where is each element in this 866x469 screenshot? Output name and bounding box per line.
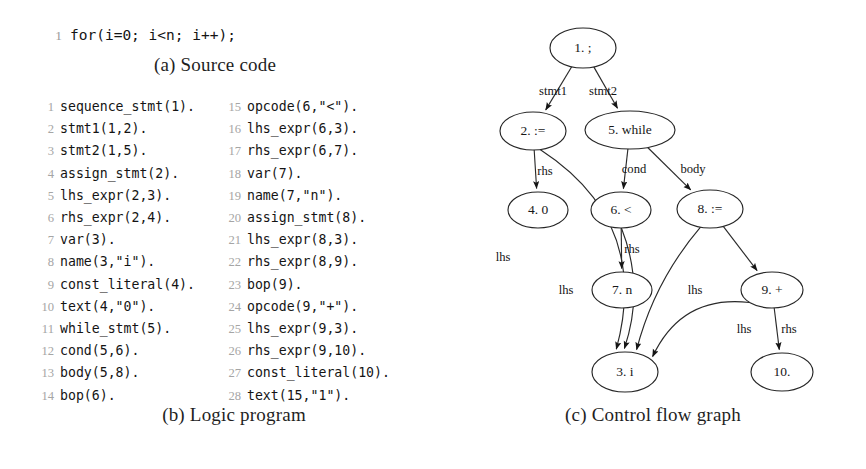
logic-program-line: 21lhs_expr(8,3).	[221, 229, 390, 251]
logic-program-line-number: 11	[34, 319, 54, 340]
source-code-panel: 1for(i=0; i<n; i++);	[40, 26, 390, 45]
logic-program-line-text: opcode(6,"<").	[247, 99, 358, 114]
cfg-edge-n8-to-n9	[723, 226, 757, 270]
logic-program-line-number: 5	[34, 186, 54, 207]
logic-program-line: 12cond(5,6).	[34, 340, 195, 362]
cfg-node-n2[interactable]: 2. :=	[500, 112, 566, 150]
cfg-node-label: 1. ;	[574, 40, 591, 55]
cfg-node-n3[interactable]: 3. i	[592, 352, 658, 392]
caption-source-code: (a) Source code	[40, 54, 390, 76]
cfg-node-n8[interactable]: 8. :=	[677, 190, 743, 228]
logic-program-line-number: 8	[34, 252, 54, 273]
cfg-edge-label: rhs	[624, 242, 639, 256]
cfg-node-group: 1. ;2. :=5. while4. 06. <8. :=7. n9. +3.…	[500, 28, 813, 392]
logic-program-line-number: 10	[34, 297, 54, 318]
logic-program-line-number: 13	[34, 363, 54, 384]
cfg-node-label: 7. n	[612, 282, 633, 297]
logic-program-line-number: 22	[221, 252, 241, 273]
logic-program-line-number: 7	[34, 230, 54, 251]
logic-program-line: 7var(3).	[34, 229, 195, 251]
cfg-node-n10[interactable]: 10.	[751, 353, 813, 391]
cfg-node-n6[interactable]: 6. <	[591, 192, 651, 228]
cfg-edge-n9-to-n3	[653, 302, 750, 357]
logic-program-column-left: 1sequence_stmt(1).2stmt1(1,2).3stmt2(1,5…	[34, 96, 195, 407]
logic-program-line: 4assign_stmt(2).	[34, 163, 195, 185]
control-flow-graph-svg: 1. ;2. :=5. while4. 06. <8. :=7. n9. +3.…	[440, 0, 866, 404]
caption-control-flow-graph: (c) Control flow graph	[440, 404, 866, 426]
cfg-edge-label: stmt2	[589, 84, 617, 98]
control-flow-graph-panel: 1. ;2. :=5. while4. 06. <8. :=7. n9. +3.…	[440, 0, 866, 430]
logic-program-line: 2stmt1(1,2).	[34, 118, 195, 140]
logic-program-line-number: 1	[34, 97, 54, 118]
cfg-node-label: 3. i	[616, 364, 634, 379]
logic-program-line: 24opcode(9,"+").	[221, 296, 390, 318]
logic-program-line-number: 25	[221, 319, 241, 340]
cfg-node-n1[interactable]: 1. ;	[550, 28, 616, 68]
logic-program-line-number: 16	[221, 119, 241, 140]
logic-program-line: 1sequence_stmt(1).	[34, 96, 195, 118]
logic-program-line-text: lhs_expr(9,3).	[247, 321, 358, 336]
logic-program-line-text: rhs_expr(6,7).	[247, 143, 358, 158]
logic-program-line: 20assign_stmt(8).	[221, 207, 390, 229]
cfg-node-label: 6. <	[610, 202, 631, 217]
cfg-edge-n2-to-n3	[540, 150, 625, 350]
logic-program-line-text: rhs_expr(9,10).	[247, 343, 366, 358]
logic-program-line: 18var(7).	[221, 163, 390, 185]
cfg-edge-label: lhs	[688, 283, 703, 297]
logic-program-line-text: rhs_expr(8,9).	[247, 254, 358, 269]
cfg-node-n7[interactable]: 7. n	[592, 272, 652, 308]
cfg-node-label: 8. :=	[698, 201, 723, 216]
logic-program-line-number: 19	[221, 186, 241, 207]
logic-program-line-number: 17	[221, 141, 241, 162]
logic-program-line-text: name(7,"n").	[247, 188, 342, 203]
logic-program-line-text: rhs_expr(2,4).	[60, 210, 171, 225]
logic-program-line-text: assign_stmt(2).	[60, 166, 179, 181]
logic-program-line-text: const_literal(4).	[60, 277, 195, 292]
logic-program-line-text: bop(9).	[247, 277, 303, 292]
cfg-edge-n9-to-n10	[774, 308, 779, 350]
logic-program-line: 22rhs_expr(8,9).	[221, 251, 390, 273]
logic-program-line-number: 27	[221, 363, 241, 384]
cfg-edge-label: lhs	[737, 322, 752, 336]
cfg-edge-label: lhs	[559, 283, 574, 297]
cfg-edge-n6-to-n7	[621, 228, 622, 269]
logic-program-line: 25lhs_expr(9,3).	[221, 318, 390, 340]
logic-program-line-number: 9	[34, 275, 54, 296]
cfg-node-n9[interactable]: 9. +	[741, 272, 803, 308]
logic-program-line-text: lhs_expr(6,3).	[247, 121, 358, 136]
logic-program-line: 3stmt2(1,5).	[34, 140, 195, 162]
logic-program-line-number: 12	[34, 341, 54, 362]
cfg-edge-label: rhs	[537, 164, 552, 178]
logic-program-panel: 1sequence_stmt(1).2stmt1(1,2).3stmt2(1,5…	[34, 96, 434, 407]
cfg-node-label: 9. +	[761, 282, 782, 297]
cfg-node-n5[interactable]: 5. while	[585, 111, 675, 149]
logic-program-line-number: 4	[34, 164, 54, 185]
cfg-edge-label: cond	[622, 162, 647, 176]
logic-program-line-number: 23	[221, 275, 241, 296]
logic-program-line-text: lhs_expr(2,3).	[60, 188, 171, 203]
cfg-edge-n2-to-n4	[534, 150, 536, 189]
cfg-node-n4[interactable]: 4. 0	[508, 192, 568, 228]
logic-program-line-text: name(3,"i").	[60, 254, 155, 269]
cfg-node-label: 5. while	[608, 122, 652, 137]
logic-program-line-text: opcode(9,"+").	[247, 299, 358, 314]
logic-program-line-number: 20	[221, 208, 241, 229]
logic-program-line-number: 15	[221, 97, 241, 118]
logic-program-line: 17rhs_expr(6,7).	[221, 140, 390, 162]
logic-program-line: 13body(5,8).	[34, 362, 195, 384]
logic-program-line: 6rhs_expr(2,4).	[34, 207, 195, 229]
cfg-edge-label: lhs	[496, 250, 511, 264]
logic-program-column-right: 15opcode(6,"<").16lhs_expr(6,3).17rhs_ex…	[221, 96, 390, 407]
logic-program-line-number: 2	[34, 119, 54, 140]
logic-program-line-text: var(7).	[247, 166, 303, 181]
cfg-node-label: 10.	[774, 364, 791, 379]
logic-program-line: 23bop(9).	[221, 274, 390, 296]
logic-program-line-text: lhs_expr(8,3).	[247, 232, 358, 247]
logic-program-line-text: assign_stmt(8).	[247, 210, 366, 225]
logic-program-line: 19name(7,"n").	[221, 185, 390, 207]
logic-program-line-text: sequence_stmt(1).	[60, 99, 195, 114]
logic-program-line: 27const_literal(10).	[221, 362, 390, 384]
logic-program-line-text: text(4,"0").	[60, 299, 155, 314]
logic-program-line-text: cond(5,6).	[60, 343, 139, 358]
cfg-edge-label: rhs	[781, 322, 796, 336]
